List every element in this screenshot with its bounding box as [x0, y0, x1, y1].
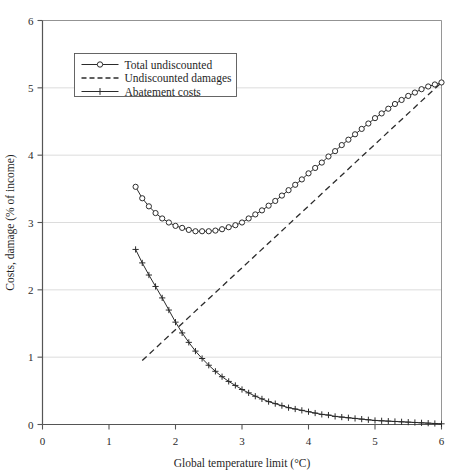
x-tick-label: 0 — [40, 435, 46, 447]
data-point-marker — [345, 415, 351, 421]
data-point-marker — [312, 410, 318, 416]
data-point-marker — [252, 393, 258, 399]
data-point-marker — [146, 204, 151, 209]
data-point-marker — [286, 188, 291, 193]
data-point-marker — [426, 84, 431, 89]
x-axis-title: Global temperature limit (°C) — [174, 457, 311, 470]
data-point-marker — [339, 142, 344, 147]
data-point-marker — [160, 216, 165, 221]
data-point-marker — [239, 386, 245, 392]
data-point-marker — [266, 399, 272, 405]
data-point-marker — [319, 160, 324, 165]
y-tick-label: 6 — [28, 15, 34, 27]
data-point-marker — [272, 401, 278, 407]
legend: Total undiscountedUndiscounted damagesAb… — [75, 54, 237, 98]
data-point-marker — [153, 210, 158, 215]
x-tick-label: 2 — [173, 435, 179, 447]
data-point-marker — [180, 225, 185, 230]
data-point-marker — [392, 101, 397, 106]
data-point-marker — [425, 420, 431, 426]
data-point-marker — [346, 137, 351, 142]
data-point-marker — [359, 416, 365, 422]
data-point-marker — [366, 121, 371, 126]
data-point-marker — [372, 116, 377, 121]
data-point-marker — [166, 220, 171, 225]
x-tick-label: 6 — [439, 435, 445, 447]
data-point-marker — [213, 228, 218, 233]
data-point-marker — [399, 97, 404, 102]
data-point-marker — [438, 421, 444, 427]
data-point-marker — [406, 93, 411, 98]
y-axis-title: Costs, damage (% of income) — [4, 154, 17, 291]
legend-label: Total undiscounted — [125, 59, 213, 71]
y-tick-label: 2 — [28, 284, 34, 296]
data-point-marker — [179, 330, 185, 336]
data-point-marker — [133, 184, 138, 189]
series-group — [133, 80, 445, 427]
series-line — [136, 249, 442, 423]
data-point-marker — [226, 225, 231, 230]
data-point-marker — [313, 165, 318, 170]
data-point-marker — [386, 106, 391, 111]
y-tick-label: 4 — [28, 149, 34, 161]
data-point-marker — [226, 378, 232, 384]
data-point-marker — [372, 417, 378, 423]
data-point-marker — [172, 319, 178, 325]
data-point-marker — [139, 260, 145, 266]
costs-damage-line-chart: 01234560123456Global temperature limit (… — [0, 0, 454, 474]
data-point-marker — [319, 411, 325, 417]
x-tick-label: 3 — [239, 435, 245, 447]
data-point-marker — [152, 283, 158, 289]
data-point-marker — [159, 295, 165, 301]
data-point-marker — [140, 196, 145, 201]
data-point-marker — [279, 193, 284, 198]
series-1 — [142, 82, 441, 360]
data-point-marker — [292, 406, 298, 412]
data-point-marker — [352, 415, 358, 421]
data-point-marker — [326, 154, 331, 159]
legend-label: Abatement costs — [125, 86, 202, 98]
legend-circle-marker-icon — [97, 62, 102, 67]
data-point-marker — [325, 412, 331, 418]
data-point-marker — [266, 203, 271, 208]
x-tick-label: 5 — [372, 435, 378, 447]
data-point-marker — [285, 405, 291, 411]
y-tick-label: 1 — [28, 351, 34, 363]
data-point-marker — [259, 208, 264, 213]
data-point-marker — [279, 403, 285, 409]
data-point-marker — [253, 212, 258, 217]
data-point-marker — [206, 229, 211, 234]
data-point-marker — [333, 149, 338, 154]
data-point-marker — [186, 227, 191, 232]
x-axis-ticks: 0123456 — [40, 425, 445, 447]
data-point-marker — [299, 177, 304, 182]
data-point-marker — [219, 227, 224, 232]
data-point-marker — [379, 418, 385, 424]
data-point-marker — [259, 396, 265, 402]
data-point-marker — [412, 90, 417, 95]
data-point-marker — [359, 126, 364, 131]
y-tick-label: 0 — [28, 419, 34, 431]
data-point-marker — [419, 87, 424, 92]
data-point-marker — [305, 409, 311, 415]
series-line — [142, 82, 441, 360]
data-point-marker — [193, 229, 198, 234]
data-point-marker — [365, 417, 371, 423]
data-point-marker — [200, 229, 205, 234]
data-point-marker — [306, 171, 311, 176]
data-point-marker — [246, 216, 251, 221]
legend-label: Undiscounted damages — [125, 72, 233, 85]
data-point-marker — [332, 413, 338, 419]
data-point-marker — [146, 272, 152, 278]
data-point-marker — [293, 182, 298, 187]
x-tick-label: 1 — [106, 435, 112, 447]
data-point-marker — [432, 420, 438, 426]
data-point-marker — [166, 307, 172, 313]
data-point-marker — [173, 223, 178, 228]
data-point-marker — [299, 407, 305, 413]
chart-figure: 01234560123456Global temperature limit (… — [0, 0, 454, 474]
data-point-marker — [232, 382, 238, 388]
data-point-marker — [352, 132, 357, 137]
y-tick-label: 3 — [28, 217, 34, 229]
series-0 — [133, 80, 444, 234]
